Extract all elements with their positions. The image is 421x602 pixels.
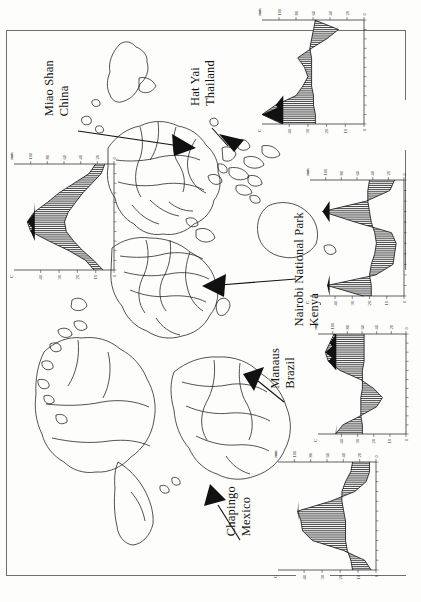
arrowhead-manaus <box>243 367 264 391</box>
svg-text:100: 100 <box>292 450 297 458</box>
site-label-miao-shan-line1: Miao Shan <box>42 60 57 116</box>
svg-text:20: 20 <box>389 324 394 329</box>
svg-text:80: 80 <box>345 324 350 329</box>
svg-text:0: 0 <box>404 438 409 441</box>
site-label-miao-shan: Miao Shan China <box>42 60 72 116</box>
nairobi-climate-svg: 020406080100010203040 mm C <box>300 168 412 308</box>
svg-text:40: 40 <box>328 10 333 15</box>
svg-text:10: 10 <box>93 274 98 279</box>
chapingo-climate-precip-unit: mm <box>273 450 278 458</box>
svg-text:20: 20 <box>345 10 350 15</box>
svg-text:20: 20 <box>386 170 391 175</box>
chapingo-climate-svg: 020406080100010203040 mm C <box>268 450 384 582</box>
site-label-chapingo-line1: Chapingo <box>224 486 239 536</box>
svg-text:10: 10 <box>343 128 348 133</box>
svg-text:0: 0 <box>402 173 407 176</box>
svg-text:20: 20 <box>338 574 343 579</box>
svg-text:0: 0 <box>112 157 117 160</box>
chapingo-climate-temp-unit: C <box>273 575 278 578</box>
svg-text:100: 100 <box>277 8 282 16</box>
svg-text:100: 100 <box>330 322 335 330</box>
miao-shan-climate-perhumid-band <box>27 203 35 242</box>
site-label-chapingo: Chapingo Mexico <box>224 486 254 536</box>
climate-diagram-miao-shan: 020406080100010203040 mm C <box>4 152 122 282</box>
svg-text:20: 20 <box>367 300 372 305</box>
svg-text:100: 100 <box>323 168 328 176</box>
svg-text:0: 0 <box>374 574 379 577</box>
site-label-manaus: Manaus Brazil <box>268 348 298 389</box>
site-label-chapingo-line2: Mexico <box>239 486 254 536</box>
chapingo-climate-humid-band <box>298 462 372 570</box>
svg-text:0: 0 <box>404 327 409 330</box>
miao-shan-climate-temp-unit: C <box>9 275 14 278</box>
svg-text:40: 40 <box>339 438 344 443</box>
svg-text:10: 10 <box>388 438 393 443</box>
svg-text:40: 40 <box>38 274 43 279</box>
climate-diagram-manaus: 020406080100010203040 mm C <box>308 322 414 446</box>
leader-miao-shan <box>78 131 180 146</box>
svg-text:40: 40 <box>333 300 338 305</box>
svg-text:60: 60 <box>311 10 316 15</box>
svg-text:40: 40 <box>78 154 83 159</box>
hat-yai-climate-precip-unit: mm <box>257 8 262 16</box>
svg-text:80: 80 <box>308 452 313 457</box>
svg-text:30: 30 <box>355 438 360 443</box>
svg-text:20: 20 <box>75 274 80 279</box>
climate-diagram-hat-yai: 020406080100010203040 mm C <box>252 8 372 136</box>
svg-text:60: 60 <box>360 324 365 329</box>
hat-yai-climate-temp-unit: C <box>257 129 262 132</box>
nairobi-climate-temp-unit: C <box>305 301 310 304</box>
svg-text:0: 0 <box>362 13 367 16</box>
figure-page: Miao Shan China Hat Yai Thailand Nairobi… <box>0 0 421 602</box>
svg-text:30: 30 <box>306 128 311 133</box>
svg-text:60: 60 <box>355 170 360 175</box>
manaus-climate-temp-unit: C <box>313 439 318 442</box>
site-label-hat-yai-line1: Hat Yai <box>188 60 203 106</box>
svg-text:0: 0 <box>362 128 367 131</box>
leader-nairobi <box>220 279 296 285</box>
svg-text:40: 40 <box>370 170 375 175</box>
site-label-manaus-line2: Brazil <box>283 348 298 389</box>
svg-text:20: 20 <box>371 438 376 443</box>
svg-text:30: 30 <box>320 574 325 579</box>
svg-text:80: 80 <box>294 10 299 15</box>
svg-text:20: 20 <box>324 128 329 133</box>
climate-diagram-nairobi: 020406080100010203040 mm C <box>300 168 412 308</box>
site-label-hat-yai-line2: Thailand <box>203 60 218 106</box>
svg-text:40: 40 <box>302 574 307 579</box>
miao-shan-climate-precip-unit: mm <box>9 152 14 160</box>
svg-text:30: 30 <box>57 274 62 279</box>
svg-text:0: 0 <box>112 274 117 277</box>
svg-text:60: 60 <box>62 154 67 159</box>
svg-text:80: 80 <box>45 154 50 159</box>
nairobi-climate-precip-unit: mm <box>305 168 310 176</box>
climate-diagram-chapingo: 020406080100010203040 mm C <box>268 450 384 582</box>
manaus-climate-svg: 020406080100010203040 mm C <box>308 322 414 446</box>
arrowhead-chapingo <box>204 484 226 506</box>
svg-text:20: 20 <box>95 154 100 159</box>
manaus-climate-precip-unit: mm <box>313 322 318 330</box>
svg-text:10: 10 <box>356 574 361 579</box>
svg-text:40: 40 <box>341 452 346 457</box>
nairobi-climate-perhumid-band <box>323 201 330 296</box>
site-label-manaus-line1: Manaus <box>268 348 283 389</box>
svg-text:100: 100 <box>28 152 33 160</box>
svg-text:60: 60 <box>325 452 330 457</box>
svg-text:0: 0 <box>374 455 379 458</box>
svg-text:20: 20 <box>357 452 362 457</box>
svg-text:30: 30 <box>350 300 355 305</box>
hat-yai-climate-humid-band <box>262 20 339 124</box>
svg-text:40: 40 <box>287 128 292 133</box>
miao-shan-climate-svg: 020406080100010203040 mm C <box>4 152 122 282</box>
svg-text:80: 80 <box>339 170 344 175</box>
svg-text:40: 40 <box>374 324 379 329</box>
svg-text:10: 10 <box>384 300 389 305</box>
hat-yai-climate-svg: 020406080100010203040 mm C <box>252 8 372 136</box>
site-label-hat-yai: Hat Yai Thailand <box>188 60 218 106</box>
svg-text:0: 0 <box>402 300 407 303</box>
site-label-miao-shan-line2: China <box>57 60 72 116</box>
